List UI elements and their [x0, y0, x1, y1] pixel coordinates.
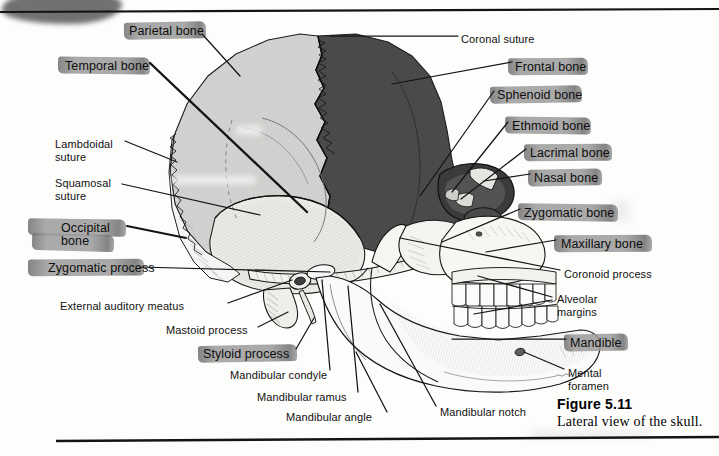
top-rule [0, 9, 719, 12]
figure-page: Parietal boneTemporal boneFrontal boneSp… [0, 0, 719, 456]
page-rules [0, 0, 719, 456]
bottom-rule [56, 437, 719, 441]
